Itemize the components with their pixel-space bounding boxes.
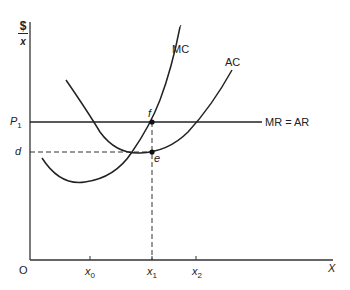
y-axis-denominator: x xyxy=(20,36,26,47)
x-axis-label: X xyxy=(328,263,335,274)
point-f-label: f xyxy=(148,108,151,119)
x0-sub: 0 xyxy=(91,271,95,280)
point-f xyxy=(149,119,154,124)
mr-ar-label: MR = AR xyxy=(265,117,309,128)
tick-label-x2: x2 xyxy=(192,266,202,277)
y-axis-label: $ x xyxy=(17,20,29,47)
tick-label-x0: x0 xyxy=(85,266,95,277)
x1-base: x xyxy=(147,265,153,277)
ac-label: AC xyxy=(225,57,240,68)
cost-curves-diagram: $ x P1 d O x0 x1 x2 X MC AC MR = AR f e xyxy=(0,0,350,290)
mc-label: MC xyxy=(172,44,189,55)
origin-label: O xyxy=(19,265,28,276)
y-axis-numerator: $ xyxy=(20,19,27,33)
x1-sub: 1 xyxy=(153,271,157,280)
tick-label-d: d xyxy=(15,146,21,157)
d-base: d xyxy=(15,145,21,157)
point-e-label: e xyxy=(154,153,160,164)
x2-base: x xyxy=(192,265,198,277)
x0-base: x xyxy=(85,265,91,277)
p1-sub: 1 xyxy=(17,121,21,130)
tick-label-p1: P1 xyxy=(10,116,22,127)
fraction-bar xyxy=(18,33,28,34)
tick-label-x1: x1 xyxy=(147,266,157,277)
x2-sub: 2 xyxy=(198,271,202,280)
mc-leader xyxy=(180,25,181,27)
